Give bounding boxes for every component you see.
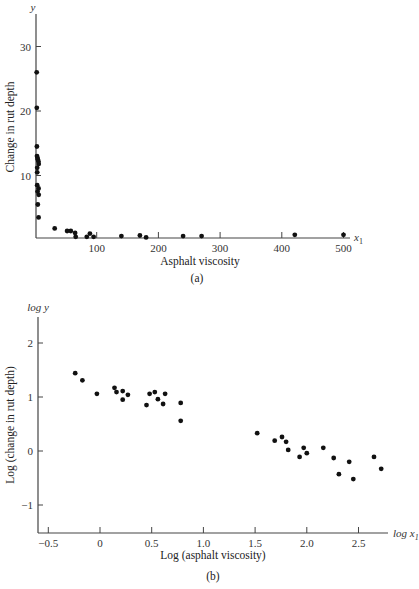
- chart-a-xlabel: Asphalt viscosity: [160, 255, 240, 268]
- data-point: [34, 70, 39, 75]
- data-point: [91, 234, 96, 239]
- chart-a-x-var: x1: [353, 231, 363, 246]
- data-point: [36, 215, 41, 220]
- x-tick-label: 0.5: [145, 537, 159, 549]
- x-tick-label: 300: [212, 242, 229, 254]
- x-tick-label: 2.0: [300, 537, 314, 549]
- data-point: [138, 233, 143, 238]
- data-point: [178, 401, 183, 406]
- data-point: [280, 435, 285, 440]
- data-point: [35, 202, 40, 207]
- chart-a-points: [34, 70, 346, 240]
- chart-b-x-var: log x1: [393, 527, 419, 542]
- x-tick-label: 1.5: [248, 537, 262, 549]
- data-point: [379, 466, 384, 471]
- x-tick-label: 2.5: [352, 537, 366, 549]
- data-point: [126, 392, 131, 397]
- chart-b-xlabel: Log (asphalt viscosity): [160, 549, 266, 562]
- data-point: [321, 445, 326, 450]
- data-point: [337, 472, 342, 477]
- data-point: [284, 439, 289, 444]
- data-point: [163, 391, 168, 396]
- data-point: [114, 390, 119, 395]
- data-point: [272, 438, 277, 443]
- data-point: [35, 165, 40, 170]
- data-point: [68, 229, 73, 234]
- figure: 102030 100200300400500 y x1 Change in ru…: [0, 0, 419, 589]
- data-point: [351, 477, 356, 482]
- chart-b-y-var: log y: [27, 301, 49, 313]
- data-point: [73, 234, 78, 239]
- x-tick-label: 500: [335, 242, 352, 254]
- y-tick-label: 2: [28, 337, 34, 349]
- data-point: [161, 402, 166, 407]
- data-point: [112, 385, 117, 390]
- data-point: [36, 186, 41, 191]
- chart-a: 102030 100200300400500 y x1 Change in ru…: [4, 1, 363, 285]
- data-point: [144, 403, 149, 408]
- y-tick-label: 20: [20, 105, 32, 117]
- data-point: [341, 232, 346, 237]
- data-point: [304, 451, 309, 456]
- x-tick-label: 200: [150, 242, 167, 254]
- data-point: [301, 445, 306, 450]
- chart-a-ylabel: Change in rut depth: [4, 81, 17, 172]
- data-point: [347, 459, 352, 464]
- data-point: [120, 389, 125, 394]
- x-tick-label: 0: [97, 537, 103, 549]
- data-point: [372, 455, 377, 460]
- data-point: [35, 170, 40, 175]
- data-point: [178, 418, 183, 423]
- data-point: [292, 232, 297, 237]
- data-point: [34, 105, 39, 110]
- data-point: [147, 391, 152, 396]
- chart-b-x-ticks: −0.500.51.01.52.02.5: [38, 527, 366, 549]
- data-point: [152, 390, 157, 395]
- data-point: [95, 391, 100, 396]
- data-point: [35, 144, 40, 149]
- data-point: [255, 431, 260, 436]
- data-point: [73, 371, 78, 376]
- chart-b: −1012 −0.500.51.01.52.02.5 log y log x1 …: [4, 301, 419, 583]
- x-tick-label: 1.0: [197, 537, 211, 549]
- chart-b-y-ticks: −1012: [21, 337, 43, 511]
- chart-b-points: [73, 371, 384, 482]
- x-tick-label: 100: [88, 242, 105, 254]
- x-tick-label: −0.5: [38, 537, 58, 549]
- data-point: [156, 397, 161, 402]
- data-point: [80, 378, 85, 383]
- y-tick-label: 30: [20, 41, 32, 53]
- data-point: [199, 234, 204, 239]
- data-point: [52, 226, 57, 231]
- data-point: [297, 455, 302, 460]
- data-point: [331, 456, 336, 461]
- data-point: [119, 234, 124, 239]
- chart-b-ylabel: Log (change in rut depth): [4, 366, 17, 484]
- data-point: [181, 234, 186, 239]
- y-tick-label: 1: [28, 391, 34, 403]
- x-tick-label: 400: [274, 242, 291, 254]
- data-point: [120, 397, 125, 402]
- chart-a-x-ticks: 100200300400500: [88, 232, 352, 254]
- data-point: [286, 448, 291, 453]
- y-tick-label: −1: [21, 499, 33, 511]
- y-tick-label: 10: [20, 170, 32, 182]
- chart-a-y-var: y: [30, 1, 36, 13]
- chart-b-caption: (b): [206, 570, 220, 583]
- data-point: [36, 192, 41, 197]
- y-tick-label: 0: [28, 445, 34, 457]
- data-point: [144, 235, 149, 240]
- data-point: [88, 231, 93, 236]
- chart-a-caption: (a): [191, 272, 204, 285]
